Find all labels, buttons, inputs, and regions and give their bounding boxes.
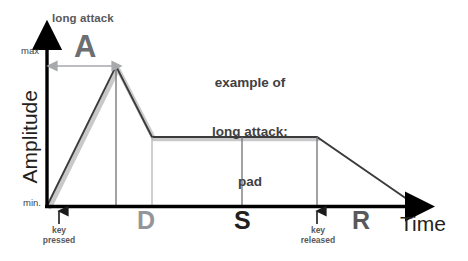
phase-label-decay: D: [137, 206, 155, 234]
y-axis-title: Amplitude: [18, 82, 42, 192]
example-annotation-line-3: pad: [175, 174, 325, 190]
long-attack-caption: long attack: [52, 12, 114, 25]
phase-label-attack: A: [74, 30, 96, 65]
y-axis-min-tick-label: min.: [23, 198, 41, 209]
x-axis-title: Time: [400, 212, 446, 236]
phase-label-release: R: [352, 206, 370, 234]
adsr-envelope-diagram: long attack A D S R example of long atta…: [0, 0, 468, 261]
example-annotation-line-1: example of: [175, 75, 325, 91]
y-axis-max-tick-label: max: [21, 46, 39, 57]
key-released-label: key released: [287, 226, 349, 245]
example-annotation: example of long attack: pad: [175, 42, 325, 223]
example-annotation-line-2: long attack:: [175, 124, 325, 140]
key-pressed-label: key pressed: [29, 226, 89, 245]
